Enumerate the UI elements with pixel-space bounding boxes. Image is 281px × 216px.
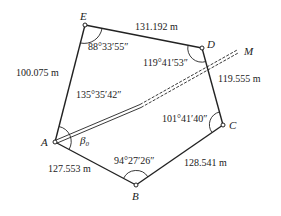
angle-value-e: 88°33′55″	[88, 41, 128, 52]
point-label-b: B	[132, 190, 139, 202]
side-length-de: 131.192 m	[135, 21, 178, 32]
point-label-d: D	[206, 38, 215, 50]
point-e-marker	[83, 23, 87, 27]
angle-value-c: 101°41′40″	[162, 113, 207, 124]
point-label-a: A	[40, 136, 48, 148]
point-c-marker	[221, 123, 225, 127]
side-length-ab: 127.553 m	[48, 163, 91, 174]
angle-label-beta0: β0	[79, 134, 89, 148]
point-a-marker	[53, 140, 57, 144]
point-label-m: M	[243, 45, 254, 57]
side-length-bc: 128.541 m	[184, 157, 227, 168]
angle-arc-c	[209, 112, 219, 133]
angle-value-d: 119°41′53″	[143, 57, 188, 68]
point-label-c: C	[229, 119, 237, 131]
edge-e-a	[55, 25, 85, 142]
side-length-cd: 119.555 m	[218, 73, 261, 84]
point-b-marker	[134, 183, 138, 187]
point-label-e: E	[79, 10, 87, 22]
traverse-diagram: E D C B A M 131.192 m 100.075 m 119.555 …	[0, 0, 281, 216]
angle-value-b: 94°27′26″	[114, 155, 154, 166]
angle-arc-a-outer	[59, 127, 70, 136]
side-length-ea: 100.075 m	[16, 67, 59, 78]
angle-arc-b	[124, 170, 149, 178]
angle-value-a: 135°35′42″	[76, 89, 121, 100]
point-d-marker	[200, 46, 204, 50]
